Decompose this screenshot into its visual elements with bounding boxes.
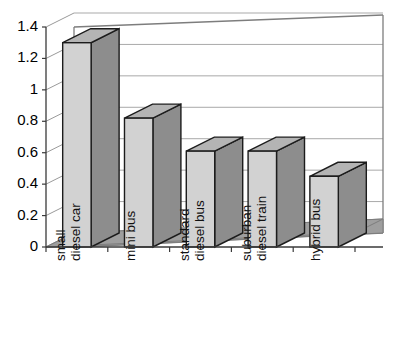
x-axis-category-label: standard — [177, 208, 192, 261]
x-axis-category-label: diesel car — [68, 203, 83, 261]
y-axis-tick-label: 0 — [30, 237, 38, 254]
y-axis-tick-label: 0.8 — [17, 111, 38, 128]
y-axis-tick-label: 1.4 — [17, 17, 38, 34]
x-axis-category-label: small — [53, 229, 68, 261]
y-axis-tick-label: 1.2 — [17, 48, 38, 65]
y-axis-tick-label: 0.6 — [17, 143, 38, 160]
chart-container: 00.20.40.60.811.21.4 smalldiesel carmini… — [0, 0, 406, 345]
y-axis-tick-label: 0.4 — [17, 174, 38, 191]
x-axis-category-label: diesel bus — [192, 200, 207, 261]
y-axis — [42, 27, 46, 247]
y-axis-tick-label: 1 — [30, 80, 38, 97]
bar-chart-3d: 00.20.40.60.811.21.4 smalldiesel carmini… — [0, 0, 406, 345]
y-axis-tick-labels: 00.20.40.60.811.21.4 — [17, 17, 38, 254]
x-axis-category-label: hybrid bus — [308, 198, 323, 261]
y-axis-tick-label: 0.2 — [17, 206, 38, 223]
x-axis-category-label: suburban — [239, 205, 254, 261]
x-axis-category-label: diesel train — [254, 196, 269, 261]
x-axis-category-label: mini bus — [123, 210, 138, 261]
